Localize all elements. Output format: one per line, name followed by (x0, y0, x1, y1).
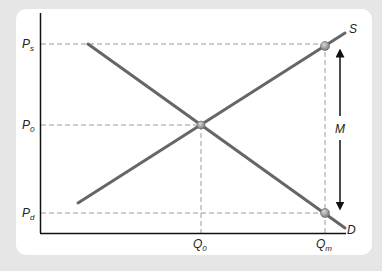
supply-curve-label: S (349, 22, 357, 36)
supply-curve (78, 33, 345, 203)
demand-price-point (321, 209, 330, 218)
demand-curve-label: D (347, 223, 356, 237)
supply-price-point (321, 42, 330, 51)
m-label: M (335, 122, 345, 136)
diagram-stage: Ps P0 Pd Q0 Qm S D M (0, 0, 382, 271)
supply-demand-diagram: Ps P0 Pd Q0 Qm S D M (0, 0, 382, 271)
equilibrium-point (197, 121, 205, 129)
qm-label: Qm (316, 237, 332, 253)
ps-label: Ps (22, 37, 34, 53)
demand-curve (88, 44, 345, 228)
pd-label: Pd (22, 206, 35, 222)
q0-label: Q0 (193, 237, 207, 253)
p0-label: P0 (22, 118, 35, 134)
